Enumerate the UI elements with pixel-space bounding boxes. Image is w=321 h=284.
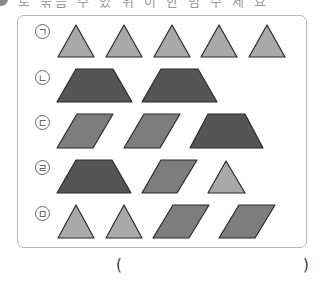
triangle-shape	[58, 205, 94, 238]
trapezoid-shape	[57, 69, 132, 102]
parallelogram-shape	[142, 160, 197, 193]
triangle-shape	[106, 205, 142, 238]
parallelogram-shape	[153, 205, 209, 238]
parallelogram-shape	[57, 114, 113, 148]
parallelogram-shape	[219, 205, 275, 238]
parallelogram-shape	[124, 114, 180, 148]
trapezoid-shape	[142, 69, 217, 102]
triangle-shape	[58, 25, 94, 57]
answer-input[interactable]	[172, 256, 292, 276]
shapes-canvas	[0, 0, 321, 284]
triangle-shape	[208, 161, 245, 193]
triangle-shape	[154, 25, 190, 57]
answer-close-paren: )	[303, 256, 309, 274]
trapezoid-shape	[57, 160, 131, 193]
answer-open-paren: (	[116, 256, 122, 274]
trapezoid-shape	[190, 114, 263, 148]
triangle-shape	[201, 25, 237, 57]
triangle-shape	[249, 25, 285, 57]
triangle-shape	[106, 25, 142, 57]
